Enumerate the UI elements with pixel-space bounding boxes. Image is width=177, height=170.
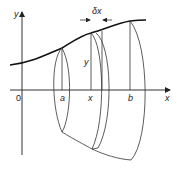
y-axis-label: y (13, 9, 19, 19)
slice-bottom (92, 148, 98, 149)
slice-front (91, 33, 102, 149)
x-axis-label: x (164, 93, 170, 103)
solid-of-revolution-diagram: y x 0 a x b y δx (0, 0, 177, 170)
b-label: b (128, 93, 133, 103)
x-label: x (87, 93, 93, 103)
height-y-label: y (83, 57, 89, 67)
delta-x-label: δx (92, 6, 102, 16)
a-label: a (60, 93, 65, 103)
origin-label: 0 (16, 93, 21, 103)
function-curve (10, 20, 146, 65)
